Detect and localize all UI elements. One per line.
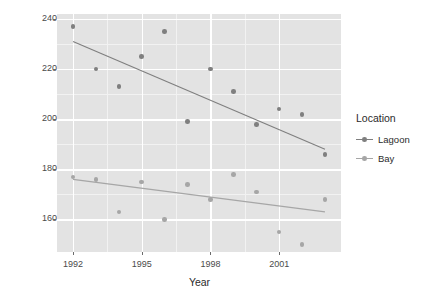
y-axis-tick-label: 220 (17, 63, 57, 73)
x-axis-tick-mark (279, 252, 280, 255)
x-axis-tick-label: 1995 (120, 259, 164, 269)
y-axis-tick-label: 160 (17, 213, 57, 223)
x-axis-tick-mark (210, 252, 211, 255)
legend-key-lagoon-icon (356, 132, 373, 147)
data-point (254, 190, 259, 195)
x-axis-tick-mark (73, 252, 74, 255)
legend-key-bay-icon (356, 151, 373, 166)
y-axis-tick-mark (53, 219, 56, 220)
data-point (300, 112, 305, 117)
legend-label-bay: Bay (378, 153, 394, 164)
data-point (94, 177, 99, 182)
data-point (162, 217, 167, 222)
y-axis-tick-mark (53, 69, 56, 70)
y-axis-tick-mark (53, 19, 56, 20)
legend-item-bay[interactable]: Bay (356, 150, 434, 167)
data-point (231, 89, 236, 94)
y-axis-tick-label: 200 (17, 113, 57, 123)
plot-panel (57, 14, 341, 252)
x-axis-tick-label: 1998 (188, 259, 232, 269)
data-point (208, 67, 213, 72)
y-axis-tick-label: 240 (17, 13, 57, 23)
y-axis-tick-mark (53, 169, 56, 170)
legend-label-lagoon: Lagoon (378, 134, 410, 145)
data-point (71, 24, 76, 29)
trend-line (73, 179, 325, 212)
data-point (139, 180, 144, 185)
scatter-plot-figure: Sea Otter Abundance 160180200220240 1992… (0, 0, 437, 301)
x-axis-tick-label: 1992 (51, 259, 95, 269)
data-point (323, 152, 328, 157)
x-axis-tick-label: 2001 (257, 259, 301, 269)
x-axis-title: Year (57, 276, 342, 288)
data-point (254, 122, 259, 127)
data-point (139, 54, 144, 59)
data-point (323, 197, 328, 202)
legend-item-lagoon[interactable]: Lagoon (356, 131, 434, 148)
y-axis-tick-mark (53, 119, 56, 120)
data-point (117, 84, 122, 89)
data-point (208, 197, 213, 202)
trend-lines (57, 14, 341, 252)
x-axis-tick-mark (142, 252, 143, 255)
y-axis-tick-label: 180 (17, 163, 57, 173)
data-point (231, 172, 236, 177)
trend-line (73, 42, 325, 150)
data-point (300, 242, 305, 247)
data-point (185, 182, 190, 187)
legend-title: Location (356, 112, 434, 124)
legend: Location Lagoon Bay (356, 112, 434, 169)
data-point (185, 119, 190, 124)
data-point (162, 29, 167, 34)
